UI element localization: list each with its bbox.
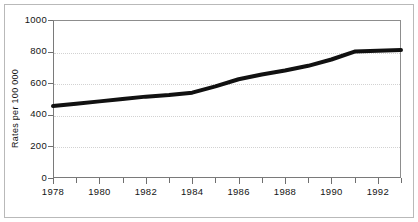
x-tick-1978 <box>53 178 54 184</box>
x-tick-1985 <box>215 178 216 183</box>
y-tick-label-1000: 1000 <box>0 15 47 25</box>
x-tick-1982 <box>146 178 147 184</box>
x-tick-1981 <box>123 178 124 183</box>
x-tick-1991 <box>355 178 356 183</box>
x-tick-1990 <box>331 178 332 184</box>
x-tick-label-1984: 1984 <box>181 186 203 197</box>
figure-canvas: Rates per 100 000 02004006008001000 1978… <box>0 0 418 222</box>
x-tick-1993 <box>401 178 402 183</box>
x-tick-1987 <box>262 178 263 183</box>
y-tick-label-200: 200 <box>0 141 47 151</box>
y-tick-label-600: 600 <box>0 78 47 88</box>
x-tick-1979 <box>76 178 77 183</box>
x-tick-1980 <box>99 178 100 184</box>
x-tick-label-1990: 1990 <box>320 186 342 197</box>
y-tick-label-0: 0 <box>0 173 47 183</box>
x-tick-1983 <box>169 178 170 183</box>
x-tick-label-1988: 1988 <box>274 186 296 197</box>
x-tick-label-1980: 1980 <box>88 186 110 197</box>
x-tick-label-1992: 1992 <box>367 186 389 197</box>
x-tick-label-1982: 1982 <box>135 186 157 197</box>
grid-line-y-600 <box>54 84 400 85</box>
x-tick-1989 <box>308 178 309 183</box>
x-tick-1984 <box>192 178 193 184</box>
grid-line-y-800 <box>54 53 400 54</box>
grid-line-y-200 <box>54 147 400 148</box>
x-tick-1986 <box>239 178 240 184</box>
y-tick-label-800: 800 <box>0 46 47 56</box>
y-tick-label-400: 400 <box>0 109 47 119</box>
plot-area <box>53 20 401 178</box>
x-tick-label-1986: 1986 <box>227 186 249 197</box>
x-tick-1988 <box>285 178 286 184</box>
x-tick-label-1978: 1978 <box>42 186 64 197</box>
x-tick-1992 <box>378 178 379 184</box>
grid-line-y-400 <box>54 116 400 117</box>
